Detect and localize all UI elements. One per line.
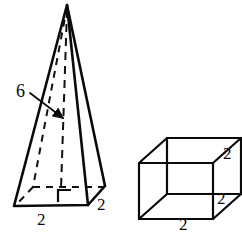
cube-connector-bottom-left (139, 194, 167, 219)
cube-front-face (139, 163, 213, 219)
pyramid-hidden-lateral-edge (33, 7, 67, 187)
cube-connector-top-left (139, 138, 167, 163)
pyramid-base-right-label: 2 (97, 196, 106, 213)
pyramid-right-lateral-edge (67, 5, 105, 186)
pyramid-right-angle-mark (58, 190, 71, 202)
pyramid-base-front-label: 2 (37, 211, 46, 228)
cube-bottom-edge-label: 2 (179, 216, 188, 233)
cube-vertical-edge-label: 2 (223, 145, 232, 162)
cube-depth-edge-label: 2 (217, 190, 226, 207)
pyramid-height-label: 6 (16, 82, 25, 100)
figure-canvas (0, 0, 242, 233)
geometry-figure: 6 2 2 2 2 2 (0, 0, 242, 233)
pyramid-group (14, 5, 105, 206)
pyramid-front-faces-outline (14, 5, 88, 206)
